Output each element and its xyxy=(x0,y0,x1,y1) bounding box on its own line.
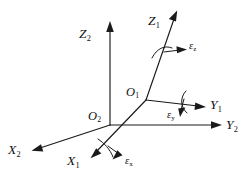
axis-y2 xyxy=(110,121,222,128)
rotation-arc-eps-y-arrowhead xyxy=(178,108,185,117)
rotation-arc-eps-z xyxy=(152,46,187,58)
axis-x1-line xyxy=(96,100,146,152)
axis-x2 xyxy=(32,125,111,151)
coordinate-frame-diagram: Z2 Y2 X2 Z1 Y1 X1 O1 O2 εz εy εx xyxy=(0,0,251,183)
axis-y1-arrowhead xyxy=(195,103,207,110)
axis-label-z1: Z1 xyxy=(148,14,160,28)
rotation-arc-eps-x-arrowhead xyxy=(113,150,123,159)
rotation-arc-eps-z-arrowhead xyxy=(176,46,187,53)
axis-x2-line xyxy=(40,125,110,148)
axis-z1-arrowhead xyxy=(169,11,177,22)
axis-y2-arrowhead xyxy=(211,121,222,128)
origin-label-o2: O2 xyxy=(88,110,101,123)
axis-x2-arrowhead xyxy=(32,144,44,151)
axis-label-x2: X2 xyxy=(8,143,20,157)
axis-y1-line xyxy=(146,100,198,106)
rotation-label-eps-x: εx xyxy=(125,156,133,167)
rotation-arc-eps-x xyxy=(98,139,123,160)
axis-label-y1: Y1 xyxy=(210,98,222,112)
axis-y1 xyxy=(146,100,206,110)
axis-x1-arrowhead xyxy=(91,148,102,158)
axis-label-y2: Y2 xyxy=(226,118,238,132)
origin-label-o1: O1 xyxy=(126,86,139,99)
rotation-label-eps-z: εz xyxy=(189,41,196,52)
axis-label-x1: X1 xyxy=(67,154,79,168)
axis-z2-arrowhead xyxy=(106,21,114,32)
rotation-label-eps-y: εy xyxy=(167,110,175,121)
axis-z1-line xyxy=(146,19,174,100)
axis-z2 xyxy=(106,21,114,125)
axis-label-z2: Z2 xyxy=(79,27,91,41)
